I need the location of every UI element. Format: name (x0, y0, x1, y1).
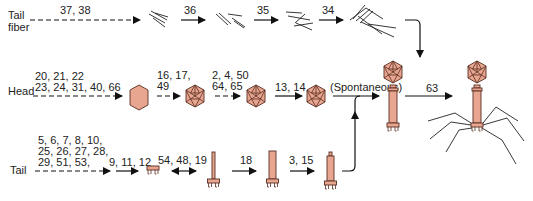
connector-arrow-to-final (405, 20, 420, 57)
connector-arrow-up (342, 112, 355, 171)
prohead-shell (130, 85, 148, 110)
gene-label: 63 (426, 82, 438, 94)
t4-assembly-diagram: Tail fiber 37, 38 36 35 34 (0, 0, 533, 201)
gene-label: 34 (322, 4, 334, 16)
gene-label: 49 (157, 80, 169, 92)
gene-label: 9, 11, 12 (109, 156, 151, 168)
complete-phage (428, 61, 524, 164)
baseplate (147, 166, 159, 174)
gene-label: 36 (184, 4, 196, 16)
tail-with-sheath (267, 151, 279, 187)
row-label-head: Head (8, 85, 34, 97)
fiber-fragment-3 (286, 12, 313, 30)
mature-head (307, 85, 325, 107)
gene-label: 35 (257, 4, 269, 16)
gene-label: 18 (240, 154, 252, 166)
row-label-tail-fiber-line1: Tail (8, 9, 25, 21)
gene-label: 54, 48, 19 (158, 154, 207, 166)
gene-label: 37, 38 (60, 4, 91, 16)
gene-label: 29, 51, 53, (38, 156, 90, 168)
row-tail: Tail 5, 6, 7, 8, 10, 25, 26, 27, 28, 29,… (10, 96, 360, 189)
gene-label: 64, 65 (212, 80, 243, 92)
fiber-fragment-2 (216, 13, 245, 28)
completed-tail (325, 152, 337, 189)
baseplate-with-core (208, 152, 220, 187)
connector-join (355, 96, 360, 112)
row-label-tail: Tail (10, 164, 27, 176)
icosahedral-head-1 (186, 85, 204, 107)
gene-label: 3, 15 (289, 154, 313, 166)
assembled-tail-fiber (350, 5, 396, 37)
head-tail-complex (384, 61, 402, 131)
icosahedral-head-2 (247, 85, 265, 107)
fiber-fragment-1 (149, 11, 168, 27)
row-label-tail-fiber-line2: fiber (8, 21, 30, 33)
row-tail-fiber: Tail fiber 37, 38 36 35 34 (8, 4, 420, 57)
gene-label: 13, 14 (275, 81, 306, 93)
gene-label: 23, 24, 31, 40, 66 (35, 81, 121, 93)
